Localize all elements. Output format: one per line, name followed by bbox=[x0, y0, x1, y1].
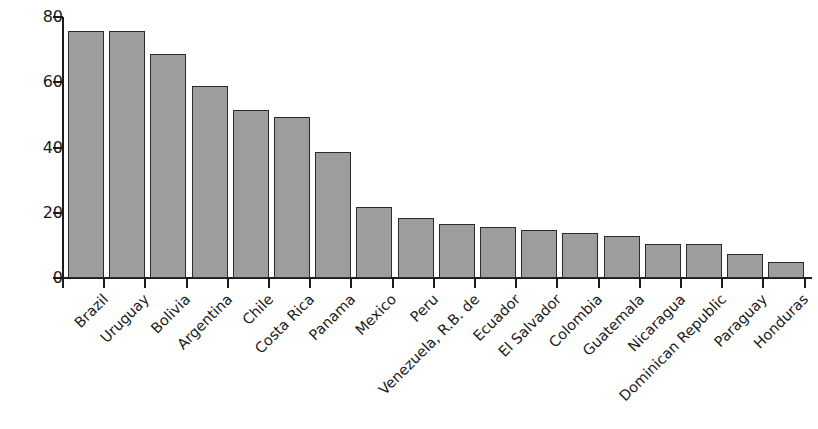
x-axis-tick bbox=[392, 279, 394, 288]
bar bbox=[645, 244, 681, 278]
x-axis-tick bbox=[598, 279, 600, 288]
x-axis-tick bbox=[186, 279, 188, 288]
y-axis-tick-label: 40 bbox=[29, 138, 63, 157]
y-axis-tick-label: 80 bbox=[29, 7, 63, 26]
bar bbox=[604, 236, 640, 278]
x-axis-label-text: Peru bbox=[407, 291, 441, 325]
bar bbox=[233, 110, 269, 278]
x-axis-tick bbox=[680, 279, 682, 288]
x-axis-label: Mexico bbox=[353, 291, 400, 338]
x-axis-tick bbox=[474, 279, 476, 288]
x-axis-label: Peru bbox=[407, 291, 441, 325]
bar bbox=[521, 230, 557, 278]
bar bbox=[68, 31, 104, 278]
bar bbox=[727, 254, 763, 278]
bar bbox=[480, 227, 516, 278]
x-axis-label: Chile bbox=[239, 291, 276, 328]
bar bbox=[109, 31, 145, 278]
x-axis-tick bbox=[268, 279, 270, 288]
x-axis-tick bbox=[309, 279, 311, 288]
bar bbox=[686, 244, 722, 278]
x-axis-tick bbox=[639, 279, 641, 288]
x-axis-tick bbox=[103, 279, 105, 288]
x-axis-label-text: Chile bbox=[239, 291, 276, 328]
bar-chart: percent 020406080 BrazilUruguayBoliviaAr… bbox=[0, 0, 818, 429]
x-axis-tick bbox=[144, 279, 146, 288]
bar bbox=[356, 207, 392, 278]
bar bbox=[439, 224, 475, 278]
y-axis-tick-label: 20 bbox=[29, 203, 63, 222]
x-axis-tick bbox=[433, 279, 435, 288]
x-axis-label-text: Mexico bbox=[353, 291, 400, 338]
x-axis-tick bbox=[804, 279, 806, 288]
x-axis-tick bbox=[762, 279, 764, 288]
bar bbox=[274, 117, 310, 278]
bar bbox=[768, 262, 804, 278]
bar bbox=[150, 54, 186, 278]
x-axis-tick bbox=[721, 279, 723, 288]
bar bbox=[398, 218, 434, 278]
bar bbox=[562, 233, 598, 278]
x-axis-tick bbox=[556, 279, 558, 288]
x-axis-tick bbox=[62, 279, 64, 288]
y-axis-tick-label: 0 bbox=[29, 268, 63, 287]
y-axis-tick-label: 60 bbox=[29, 72, 63, 91]
bars-group bbox=[62, 17, 812, 278]
bar bbox=[192, 86, 228, 278]
x-axis-tick bbox=[227, 279, 229, 288]
x-axis-tick bbox=[515, 279, 517, 288]
bar bbox=[315, 152, 351, 278]
x-axis-tick bbox=[350, 279, 352, 288]
